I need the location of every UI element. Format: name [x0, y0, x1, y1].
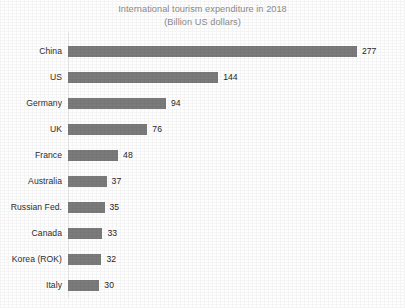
bar — [68, 72, 218, 83]
bar — [68, 202, 105, 213]
bar — [68, 228, 102, 239]
bar-value-label: 32 — [106, 254, 116, 264]
chart-title-block: International tourism expenditure in 201… — [0, 3, 405, 28]
chart-title: International tourism expenditure in 201… — [0, 3, 405, 16]
bar-row: Italy30 — [0, 272, 405, 298]
bar-row: US144 — [0, 64, 405, 90]
bar-value-label: 277 — [362, 46, 377, 56]
bar-row: Australia37 — [0, 168, 405, 194]
bar-category-label: UK — [0, 124, 62, 134]
bar-category-label: Germany — [0, 98, 62, 108]
bar-track: 76 — [68, 116, 405, 142]
bar-value-label: 48 — [123, 150, 133, 160]
bar-row: Germany94 — [0, 90, 405, 116]
bar-category-label: France — [0, 150, 62, 160]
bar-value-label: 37 — [112, 176, 122, 186]
bar-value-label: 35 — [110, 202, 120, 212]
bar-row: Korea (ROK)32 — [0, 246, 405, 272]
bar — [68, 46, 357, 57]
bar-category-label: Australia — [0, 176, 62, 186]
bar-track: 30 — [68, 272, 405, 298]
bar-chart-figure: International tourism expenditure in 201… — [0, 0, 405, 308]
plot-area: China277US144Germany94UK76France48Austra… — [0, 32, 405, 302]
bar-track: 94 — [68, 90, 405, 116]
bar-track: 277 — [68, 38, 405, 64]
bar — [68, 150, 118, 161]
bar-row: France48 — [0, 142, 405, 168]
bar — [68, 98, 166, 109]
bar-track: 32 — [68, 246, 405, 272]
bar-row: UK76 — [0, 116, 405, 142]
bar-track: 144 — [68, 64, 405, 90]
bar — [68, 254, 101, 265]
bar-row: Canada33 — [0, 220, 405, 246]
bar-category-label: Russian Fed. — [0, 202, 62, 212]
bar-value-label: 30 — [104, 280, 114, 290]
bar-category-label: Korea (ROK) — [0, 254, 62, 264]
bar-track: 37 — [68, 168, 405, 194]
bar-category-label: US — [0, 72, 62, 82]
bar-value-label: 76 — [152, 124, 162, 134]
bar-track: 48 — [68, 142, 405, 168]
bar — [68, 280, 99, 291]
bar-row: China277 — [0, 38, 405, 64]
bar-track: 35 — [68, 194, 405, 220]
bar — [68, 176, 107, 187]
bar-category-label: China — [0, 46, 62, 56]
bar-category-label: Canada — [0, 228, 62, 238]
bar — [68, 124, 147, 135]
bar-value-label: 144 — [223, 72, 238, 82]
bar-value-label: 94 — [171, 98, 181, 108]
bar-track: 33 — [68, 220, 405, 246]
chart-subtitle: (Billion US dollars) — [0, 16, 405, 29]
bar-category-label: Italy — [0, 280, 62, 290]
bar-row: Russian Fed.35 — [0, 194, 405, 220]
bar-value-label: 33 — [107, 228, 117, 238]
